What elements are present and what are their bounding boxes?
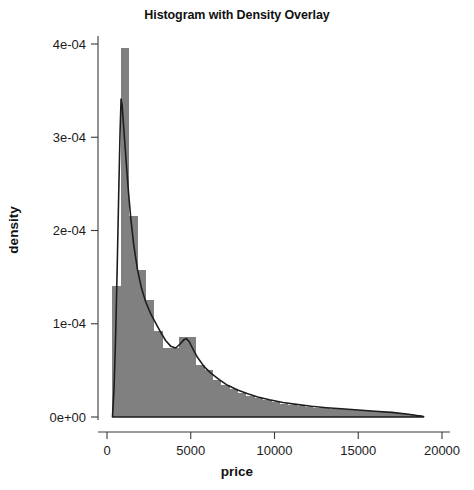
x-tick-label: 5000 [176, 443, 205, 458]
histogram-bar [355, 410, 363, 417]
histogram-bar [246, 396, 254, 417]
histogram-bar [347, 410, 355, 417]
histogram-bar [179, 337, 187, 417]
y-tick-label: 1e-04 [53, 316, 86, 331]
x-axis-title: price [221, 464, 254, 479]
histogram-bar [154, 331, 162, 417]
histogram-bar [238, 393, 246, 417]
histogram-bar [280, 404, 288, 417]
histogram-bar [213, 380, 221, 417]
y-axis-title: density [6, 206, 21, 254]
chart-figure: Histogram with Density Overlay 0e+001e-0… [0, 0, 474, 490]
histogram-bar [205, 370, 213, 417]
x-tick-label: 0 [103, 443, 110, 458]
histogram-bar [263, 400, 271, 417]
histogram-bar [313, 408, 321, 417]
histogram-bar [163, 348, 171, 417]
histogram-bar [364, 411, 372, 417]
y-axis-ticks: 0e+001e-042e-043e-044e-04 [49, 37, 98, 425]
histogram-density-plot: 0e+001e-042e-043e-044e-04 05000100001500… [0, 0, 474, 490]
histogram-bar [230, 389, 238, 417]
y-tick-label: 4e-04 [53, 37, 86, 52]
histogram-bar [221, 385, 229, 417]
histogram-bar [171, 348, 179, 417]
histogram-bar [305, 407, 313, 417]
histogram-bar [339, 409, 347, 417]
histogram-bar [255, 398, 263, 417]
histogram-bar [330, 409, 338, 417]
x-tick-label: 20000 [424, 443, 460, 458]
histogram-bar [272, 402, 280, 417]
histogram-bar [196, 365, 204, 417]
histogram-bar [297, 406, 305, 417]
histogram-bars [112, 48, 422, 417]
histogram-bar [288, 405, 296, 417]
histogram-bar [322, 408, 330, 417]
y-tick-label: 3e-04 [53, 130, 86, 145]
x-tick-label: 15000 [340, 443, 376, 458]
y-tick-label: 0e+00 [49, 410, 86, 425]
y-tick-label: 2e-04 [53, 223, 86, 238]
x-axis-ticks: 05000100001500020000 [103, 432, 460, 458]
x-tick-label: 10000 [256, 443, 292, 458]
